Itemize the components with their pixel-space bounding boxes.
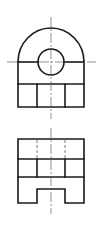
top-view	[7, 17, 96, 119]
engineering-drawing	[0, 0, 108, 227]
front-view	[18, 128, 84, 214]
